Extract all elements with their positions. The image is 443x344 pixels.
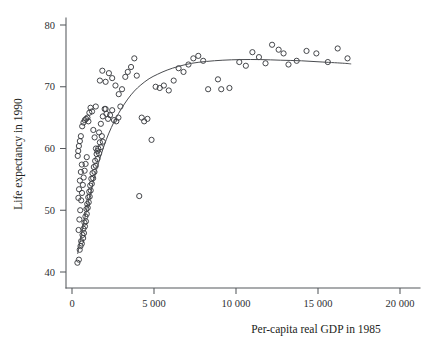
data-point-marker <box>77 217 82 222</box>
data-point-marker <box>76 143 81 148</box>
y-tick-label: 50 <box>45 205 56 216</box>
data-point-marker <box>91 127 96 132</box>
data-point-marker <box>123 74 128 79</box>
data-point-marker <box>237 59 242 64</box>
y-tick-label: 70 <box>45 81 56 92</box>
data-point-marker <box>75 153 80 158</box>
data-point-marker <box>134 73 139 78</box>
x-tick-label: 5 000 <box>142 298 166 309</box>
data-point-marker <box>77 178 82 183</box>
data-point-marker <box>99 134 104 139</box>
fit-curve-line <box>78 60 351 254</box>
data-point-marker <box>96 130 101 135</box>
data-point-marker <box>103 79 108 84</box>
data-point-marker <box>78 134 83 139</box>
data-point-marker <box>256 55 261 60</box>
y-tick-label: 80 <box>45 20 56 31</box>
data-point-marker <box>335 46 340 51</box>
data-point-marker <box>79 162 84 167</box>
x-tick-label: 0 <box>69 298 74 309</box>
data-point-marker <box>97 78 102 83</box>
data-point-marker <box>100 68 105 73</box>
preston-curve-chart: 4050607080 05 00010 00015 00020 000 Life… <box>0 0 443 344</box>
x-tick-label: 10 000 <box>222 298 251 309</box>
data-point-marker <box>215 77 220 82</box>
data-point-marker <box>93 104 98 109</box>
x-tick-label: 20 000 <box>386 298 415 309</box>
data-point-marker <box>263 61 268 66</box>
data-point-marker <box>281 51 286 56</box>
data-point-marker <box>171 78 176 83</box>
data-point-marker <box>119 87 124 92</box>
data-point-marker <box>76 257 81 262</box>
data-point-marker <box>76 187 81 192</box>
data-point-marker <box>106 71 111 76</box>
data-point-marker <box>276 47 281 52</box>
plot-axes <box>66 18 420 288</box>
data-point-marker <box>78 208 83 213</box>
data-point-marker <box>116 92 121 97</box>
x-tick-label: 15 000 <box>304 298 333 309</box>
data-point-marker <box>125 69 130 74</box>
y-tick-label: 60 <box>45 143 56 154</box>
data-point-marker <box>269 42 274 47</box>
data-point-marker <box>314 51 319 56</box>
data-point-marker <box>227 85 232 90</box>
data-point-marker <box>110 108 115 113</box>
scatter-plot-figure: 4050607080 05 00010 00015 00020 000 Life… <box>0 0 443 344</box>
data-point-marker <box>181 69 186 74</box>
data-point-marker <box>219 87 224 92</box>
data-point-marker <box>76 227 81 232</box>
data-point-marker <box>286 62 291 67</box>
data-point-marker <box>304 48 309 53</box>
data-point-marker <box>345 56 350 61</box>
data-point-marker <box>161 83 166 88</box>
data-point-marker <box>113 83 118 88</box>
data-point-markers <box>75 42 350 265</box>
y-axis-title: Life expectancy in 1990 <box>12 98 25 210</box>
data-point-marker <box>132 56 137 61</box>
data-point-marker <box>98 121 103 126</box>
data-point-marker <box>128 64 133 69</box>
x-axis-ticks: 05 00010 00015 00020 000 <box>69 288 414 309</box>
data-point-marker <box>77 138 82 143</box>
data-point-marker <box>166 88 171 93</box>
data-point-marker <box>137 193 142 198</box>
data-point-marker <box>75 260 80 265</box>
x-axis-title: Per-capita real GDP in 1985 <box>251 323 381 336</box>
data-point-marker <box>201 58 206 63</box>
data-point-marker <box>149 137 154 142</box>
data-point-marker <box>92 135 97 140</box>
y-axis-ticks: 4050607080 <box>45 20 67 278</box>
data-point-marker <box>76 148 81 153</box>
data-point-marker <box>243 63 248 68</box>
data-point-marker <box>206 87 211 92</box>
data-point-marker <box>196 53 201 58</box>
data-point-marker <box>84 155 89 160</box>
data-point-marker <box>250 50 255 55</box>
data-point-marker <box>110 76 115 81</box>
data-point-marker <box>139 115 144 120</box>
y-tick-label: 40 <box>45 267 56 278</box>
data-point-marker <box>191 56 196 61</box>
